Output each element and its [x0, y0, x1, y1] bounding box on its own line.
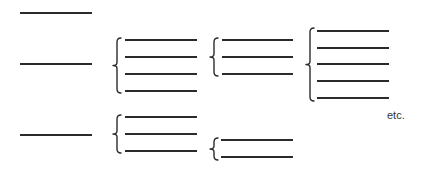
- group-a: [113, 38, 197, 93]
- grouped-levels: [113, 28, 389, 160]
- curly-brace-icon: [210, 138, 218, 160]
- group-b: [113, 115, 197, 153]
- single-levels: [20, 13, 92, 135]
- diagram-canvas: [0, 0, 425, 170]
- group-d: [306, 28, 389, 101]
- curly-brace-icon: [113, 115, 121, 153]
- group-c: [210, 38, 293, 76]
- curly-brace-icon: [306, 28, 314, 101]
- curly-brace-icon: [113, 38, 121, 93]
- curly-brace-icon: [210, 38, 218, 76]
- etc-annotation: etc.: [387, 109, 405, 121]
- group-e: [210, 138, 293, 160]
